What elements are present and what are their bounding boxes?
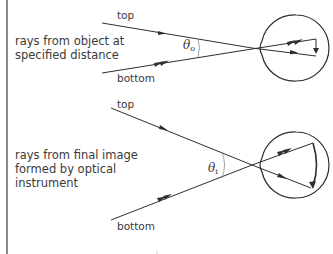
ray-top-object: [102, 23, 316, 56]
ray-diagram-svg: [0, 0, 333, 254]
ray-top-image: [111, 108, 311, 188]
diagram-canvas: rays from object at specified distance t…: [0, 0, 333, 254]
arrowhead-icon: [160, 61, 169, 67]
ray-bottom-image: [111, 143, 313, 220]
panel-object: [102, 15, 329, 81]
ray-bottom-object: [102, 39, 316, 73]
angle-arc-theta-o: [198, 39, 200, 57]
eye-icon: [260, 132, 329, 198]
arrowhead-icon: [294, 39, 303, 45]
eye-icon: [260, 15, 329, 81]
angle-arc-theta-i: [222, 152, 225, 178]
arrowhead-icon: [159, 125, 168, 131]
arrowhead-icon: [277, 173, 287, 179]
panel-image: [111, 108, 329, 220]
